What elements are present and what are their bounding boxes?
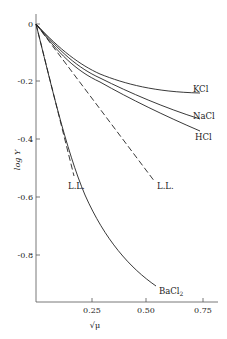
- x-ticks: [92, 298, 203, 302]
- hcl-curve: [36, 24, 200, 131]
- y-tick-label: -0.2: [18, 77, 33, 86]
- y-tick-label: -0.6: [18, 193, 33, 202]
- chart: 0 -0.2 -0.4 -0.6 -0.8 0.25 0.50 0.75 log…: [0, 0, 227, 339]
- nacl-curve: [36, 24, 200, 119]
- kcl-curve: [36, 24, 200, 93]
- y-tick-label: 0: [28, 20, 33, 29]
- limiting-law-1-1-line: [36, 24, 155, 182]
- x-tick-label: 0.50: [137, 306, 155, 315]
- y-tick-label: -0.4: [18, 135, 33, 144]
- limiting-law-label-left: L.L.: [68, 181, 85, 191]
- limiting-law-label-right: L.L.: [157, 181, 174, 191]
- curve-labels: KCl NaCl HCl L.L. L.L. BaCl2: [68, 84, 215, 297]
- limiting-law-lines: [36, 24, 155, 182]
- bacl2-curve: [36, 24, 156, 286]
- x-tick-labels: 0.25 0.50 0.75: [83, 306, 212, 315]
- y-ticks: [36, 24, 40, 255]
- y-axis-label: log Y: [13, 149, 22, 170]
- nacl-label: NaCl: [193, 111, 215, 121]
- y-tick-labels: 0 -0.2 -0.4 -0.6 -0.8: [18, 20, 33, 260]
- x-tick-label: 0.75: [194, 306, 212, 315]
- series: [36, 24, 200, 286]
- hcl-label: HCl: [195, 132, 212, 142]
- y-tick-label: -0.8: [18, 251, 33, 260]
- kcl-label: KCl: [193, 84, 209, 94]
- x-axis-label: √μ: [90, 321, 100, 330]
- x-tick-label: 0.25: [83, 306, 101, 315]
- bacl2-label: BaCl2: [159, 286, 184, 297]
